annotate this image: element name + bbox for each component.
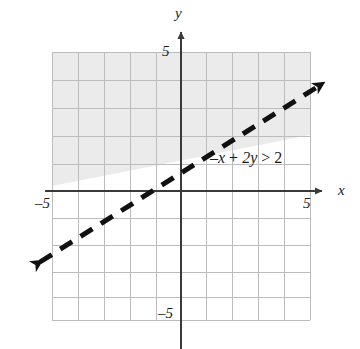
inequality-annotation: –x + 2y > 2 [210, 150, 282, 166]
x-axis-tick-negative-5: –5 [35, 196, 50, 211]
y-axis-label: y [175, 6, 182, 21]
inequality-term-1: –x [210, 149, 225, 166]
y-axis-tick-5: 5 [162, 44, 170, 59]
inequality-term-2: 2y [242, 149, 257, 166]
x-axis-tick-5: 5 [303, 196, 311, 211]
coordinate-plane-svg [0, 0, 360, 349]
inequality-plus: + [229, 149, 238, 166]
y-axis-tick-negative-5: –5 [158, 306, 173, 321]
graph-figure: y x 5 –5 5 –5 –x + 2y > 2 [0, 0, 360, 349]
inequality-relation: > [261, 149, 270, 166]
inequality-rhs: 2 [274, 149, 282, 166]
x-axis-label: x [338, 183, 345, 198]
